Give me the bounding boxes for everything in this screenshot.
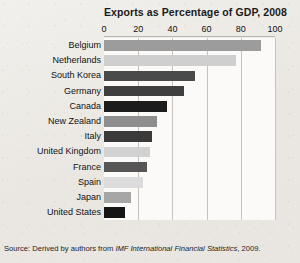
bar-row: South Korea <box>0 68 300 83</box>
bar-new-zealand <box>104 116 157 127</box>
bar-row: Japan <box>0 190 300 205</box>
bar-japan <box>104 192 131 203</box>
source-prefix: Source: Derived by authors from <box>4 244 115 253</box>
figure-exports-percentage-gdp: Exports as Percentage of GDP, 2008 02040… <box>0 0 300 263</box>
category-label-germany: Germany <box>64 84 101 99</box>
bar-south-korea <box>104 71 195 82</box>
category-label-netherlands: Netherlands <box>52 53 101 68</box>
chart-title: Exports as Percentage of GDP, 2008 <box>104 6 294 18</box>
category-label-south-korea: South Korea <box>51 68 101 83</box>
bar-united-kingdom <box>104 147 150 158</box>
bar-germany <box>104 86 184 97</box>
bar-italy <box>104 131 152 142</box>
bar-row: New Zealand <box>0 114 300 129</box>
category-label-france: France <box>73 160 101 175</box>
bar-row: France <box>0 160 300 175</box>
bar-row: Spain <box>0 175 300 190</box>
category-label-italy: Italy <box>84 129 101 144</box>
bar-row: United Kingdom <box>0 144 300 159</box>
x-tick-label-20: 20 <box>133 24 143 34</box>
x-tick-label-40: 40 <box>167 24 177 34</box>
bar-united-states <box>104 207 125 218</box>
bar-row: Canada <box>0 99 300 114</box>
bar-row: Italy <box>0 129 300 144</box>
x-tick-label-60: 60 <box>202 24 212 34</box>
category-label-united-kingdom: United Kingdom <box>37 144 101 159</box>
source-note: Source: Derived by authors from IMF Inte… <box>4 244 300 253</box>
bar-belgium <box>104 40 261 51</box>
bar-row: United States <box>0 205 300 220</box>
bar-canada <box>104 101 167 112</box>
category-label-spain: Spain <box>78 175 101 190</box>
category-label-united-states: United States <box>47 205 101 220</box>
category-label-new-zealand: New Zealand <box>48 114 101 129</box>
bar-row: Germany <box>0 84 300 99</box>
source-suffix: , 2009. <box>237 244 260 253</box>
x-tick-label-80: 80 <box>236 24 246 34</box>
source-publication: IMF International Financial Statistics <box>115 244 237 253</box>
x-tick-label-0: 0 <box>101 24 106 34</box>
category-label-japan: Japan <box>76 190 101 205</box>
bar-netherlands <box>104 55 236 66</box>
x-axis-line <box>104 36 275 37</box>
bar-row: Netherlands <box>0 53 300 68</box>
bar-row: Belgium <box>0 38 300 53</box>
x-tick-label-100: 100 <box>267 24 282 34</box>
bar-france <box>104 162 147 173</box>
category-label-canada: Canada <box>69 99 101 114</box>
category-label-belgium: Belgium <box>68 38 101 53</box>
bar-spain <box>104 177 143 188</box>
